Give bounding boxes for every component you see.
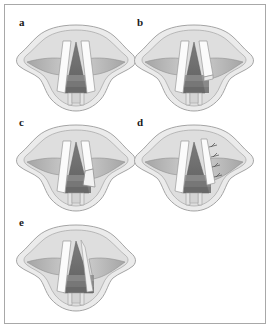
panel-e: e: [13, 213, 139, 317]
arytenoid-left-d: [186, 193, 190, 205]
tracheal-ring-3-d: [181, 187, 211, 193]
arytenoid-left-b: [186, 93, 190, 105]
larynx-illustration-c: [13, 113, 139, 217]
figure-frame: a: [4, 4, 266, 324]
posterior-commissure-a: [72, 93, 80, 103]
tracheal-ring-3-b: [181, 87, 209, 93]
tracheal-ring-2-a: [65, 81, 87, 87]
larynx-illustration-a: [13, 13, 139, 117]
panel-b: b: [131, 13, 257, 117]
panel-c: c: [13, 113, 139, 217]
arytenoid-right-a: [80, 93, 84, 105]
arytenoid-right-c: [80, 193, 84, 205]
arytenoid-right-e: [80, 293, 84, 305]
arytenoid-left-e: [68, 293, 72, 305]
panel-d: d: [131, 113, 257, 217]
tracheal-ring-3-a: [65, 87, 87, 93]
posterior-commissure-d: [190, 193, 198, 203]
tracheal-ring-2-b: [181, 81, 209, 87]
panel-label-b: b: [137, 17, 143, 28]
posterior-commissure-e: [72, 293, 80, 303]
larynx-illustration-b: [131, 13, 257, 117]
arytenoid-right-d: [198, 193, 202, 205]
posterior-commissure-c: [72, 193, 80, 203]
arytenoid-right-b: [198, 93, 202, 105]
panel-a: a: [13, 13, 139, 117]
arytenoid-left-a: [68, 93, 72, 105]
posterior-commissure-b: [190, 93, 198, 103]
tracheal-ring-3-c: [63, 187, 91, 193]
tracheal-ring-1-a: [65, 75, 87, 81]
panel-label-d: d: [137, 117, 143, 128]
panel-label-e: e: [19, 217, 24, 228]
arytenoid-left-c: [68, 193, 72, 205]
larynx-illustration-d: [131, 113, 257, 217]
larynx-illustration-e: [13, 213, 139, 317]
panel-label-a: a: [19, 17, 25, 28]
panel-label-c: c: [19, 117, 24, 128]
